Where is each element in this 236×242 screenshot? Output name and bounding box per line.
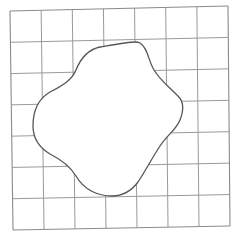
grid-horizontal-line xyxy=(13,226,230,230)
grid-vertical-line xyxy=(228,6,230,226)
grid-horizontal-line xyxy=(10,37,228,42)
grid-vertical-line xyxy=(197,7,199,227)
closed-curve-shape xyxy=(33,42,183,196)
grid-horizontal-line xyxy=(10,6,228,11)
grid-diagram xyxy=(0,0,236,242)
grid-vertical-line xyxy=(10,11,13,230)
